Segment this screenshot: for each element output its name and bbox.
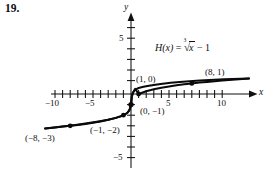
x-axis-arrow xyxy=(249,91,258,98)
point-neg8-neg3 xyxy=(68,123,73,128)
equation-minus: − xyxy=(194,42,205,53)
x-tick-label-5: 5 xyxy=(166,99,171,108)
x-tick-label-neg10: −10 xyxy=(45,99,59,108)
point-label-neg8-neg3: (−8, −3) xyxy=(25,134,55,143)
point-0-neg1 xyxy=(128,102,133,107)
function-equation: H(x) = 3√x − 1 xyxy=(155,41,210,53)
point-label-8-1: (8, 1) xyxy=(205,68,225,77)
figure-container: 19. xyxy=(0,0,268,177)
point-1-0 xyxy=(136,92,141,97)
equation-constant: 1 xyxy=(205,42,210,53)
y-axis-arrow xyxy=(128,13,135,22)
radical-expression: 3√x xyxy=(184,41,195,53)
y-tick-label-5: 5 xyxy=(119,34,124,43)
point-neg1-neg2 xyxy=(121,113,126,118)
x-tick-label-neg5: −5 xyxy=(85,99,95,108)
point-label-neg1-neg2: (−1, −2) xyxy=(90,126,120,135)
x-axis-label: x xyxy=(259,88,263,98)
radical-index: 3 xyxy=(183,37,186,43)
equation-lhs: H(x) xyxy=(155,42,173,53)
graph-canvas xyxy=(0,0,268,177)
radicand: x xyxy=(189,42,194,53)
x-tick-label-10: 10 xyxy=(217,99,226,108)
point-label-0-neg1: (0, −1) xyxy=(140,107,165,116)
y-axis-label: y xyxy=(124,3,128,13)
point-8-1 xyxy=(189,81,194,86)
point-label-1-0: (1, 0) xyxy=(136,75,156,84)
y-tick-label-neg5: −5 xyxy=(113,153,123,162)
equation-equals: = xyxy=(173,42,184,53)
